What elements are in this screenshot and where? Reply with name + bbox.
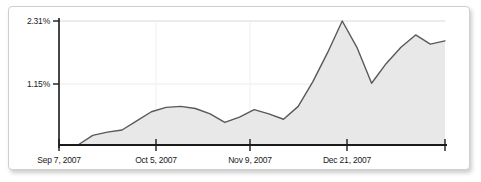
y-tick-label-mid: 1.15% <box>4 79 50 89</box>
area-fill <box>78 21 445 145</box>
chart-figure: 2.31% 1.15% Sep 7, 2007 Oct 5, 2007 Nov … <box>0 0 481 182</box>
x-tick-label-oct: Oct 5, 2007 <box>120 155 192 165</box>
x-tick-label-dec: Dec 21, 2007 <box>311 155 383 165</box>
y-tick-label-top: 2.31% <box>4 16 50 26</box>
x-tick-label-nov: Nov 9, 2007 <box>214 155 286 165</box>
x-tick-label-sep: Sep 7, 2007 <box>23 155 95 165</box>
